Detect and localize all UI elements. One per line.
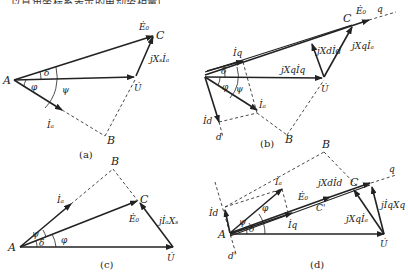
label-C: C xyxy=(140,193,149,206)
dashed-BC xyxy=(113,169,138,201)
dashed-AB xyxy=(71,169,113,204)
caption-a: (a) xyxy=(79,149,93,160)
label-Cp: C' xyxy=(316,203,325,213)
label-phi: φ xyxy=(31,82,38,92)
label-E0: Ė₀ xyxy=(128,213,140,224)
dashed-AB xyxy=(62,110,105,136)
diagram-d: A B C C' Ė₀ jXdİd q İₐ İd İq jXqİₐ jİqXq… xyxy=(208,138,406,270)
label-U: U̇ xyxy=(380,238,388,249)
label-Ia: İₐ xyxy=(46,119,54,130)
dashed-Id-Ia xyxy=(225,189,282,207)
label-Ia: İₐ xyxy=(258,99,266,110)
vector-U xyxy=(205,77,322,78)
vector-E0 xyxy=(14,36,153,80)
diagram-c: A B C İₐ Ė₀ jİₐXₛ U̇ ψ φ δ (c) xyxy=(7,155,178,270)
q-axis xyxy=(371,175,396,183)
dashed-Ia-Iq xyxy=(282,189,288,212)
phasor-diagrams: A C Ė₀ jXₛİₐ U̇ İₐ δ φ ψ B (a) C Ė₀ q İq… xyxy=(0,0,408,277)
label-Ia: İₐ xyxy=(56,194,64,205)
label-B: B xyxy=(284,133,293,146)
label-A: A xyxy=(2,74,11,87)
label-A: A xyxy=(7,241,16,254)
label-jIaXs: jİₐXₛ xyxy=(157,215,178,226)
dashed-AB xyxy=(257,113,287,135)
vector-E0 xyxy=(230,197,330,233)
vector-jXqIa xyxy=(354,190,384,234)
label-Id: İd xyxy=(202,115,213,126)
dashed-BU xyxy=(105,78,136,136)
vector-jIqXq xyxy=(372,187,384,234)
label-jXdId: jXdİd xyxy=(316,177,343,188)
arc-phi xyxy=(52,234,56,247)
label-Iq: İq xyxy=(232,47,243,58)
arc-psi xyxy=(43,230,46,237)
label-phi: φ xyxy=(61,235,68,245)
diagram-a: A C Ė₀ jXₛİₐ U̇ İₐ δ φ ψ B (a) xyxy=(2,21,169,160)
vector-Ia xyxy=(14,80,62,110)
label-C: C xyxy=(156,29,165,42)
label-B: B xyxy=(321,138,330,151)
label-Id: İd xyxy=(208,207,219,218)
vector-U xyxy=(14,77,134,80)
label-delta: δ xyxy=(249,224,254,234)
label-q: q xyxy=(377,4,383,14)
label-jXsIa: jXₛİₐ xyxy=(148,53,169,64)
label-psi: ψ xyxy=(239,217,247,227)
label-U: U̇ xyxy=(167,252,175,263)
label-delta: δ xyxy=(39,238,44,248)
d-axis xyxy=(215,182,236,254)
dashed-BU xyxy=(287,80,324,135)
label-delta: δ xyxy=(44,68,49,78)
arc-delta xyxy=(36,241,37,247)
label-psi: ψ xyxy=(62,85,70,95)
label-B: B xyxy=(106,134,115,147)
caption-b: (b) xyxy=(260,138,274,149)
diagram-b: C Ė₀ q İq jXqİq jXdİd jXqİₐ U̇ İₐ İd d δ… xyxy=(202,4,396,149)
label-q: q xyxy=(389,164,395,174)
label-delta: δ xyxy=(221,66,226,76)
label-Ia: İₐ xyxy=(274,176,282,187)
label-phi: φ xyxy=(222,82,229,92)
dashed-Id-Ia xyxy=(219,113,257,122)
label-jIqXq: jİqXq xyxy=(379,199,406,210)
label-jXqIa: jXqİₐ xyxy=(344,213,368,224)
label-C: C xyxy=(350,176,359,189)
label-jXqIa: jXqİₐ xyxy=(350,40,374,51)
label-E0: Ė₀ xyxy=(355,5,367,16)
label-psi: ψ xyxy=(236,84,244,94)
label-E0: Ė₀ xyxy=(297,191,309,202)
arc-delta xyxy=(40,72,41,79)
label-phi: φ xyxy=(262,203,269,213)
label-U: U̇ xyxy=(134,82,142,93)
label-Iq: İq xyxy=(287,219,298,230)
arc-phi xyxy=(218,77,220,85)
label-U: U̇ xyxy=(321,83,329,94)
vector-E0 xyxy=(20,201,137,247)
label-jXqIq: jXqİq xyxy=(279,64,306,75)
label-C: C xyxy=(343,12,352,25)
label-jXdId: jXdİd xyxy=(315,45,342,56)
label-d: d xyxy=(216,132,222,142)
label-B: B xyxy=(110,155,119,168)
vector-Ia xyxy=(205,77,257,110)
caption-d: (d) xyxy=(310,259,324,270)
label-d-bottom: d' xyxy=(228,251,236,261)
label-E0: Ė₀ xyxy=(138,21,150,32)
caption-c: (c) xyxy=(100,259,114,270)
label-A: A xyxy=(217,228,226,241)
